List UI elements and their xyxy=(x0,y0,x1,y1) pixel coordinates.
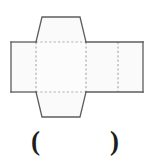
face-fills xyxy=(11,17,143,117)
answer-blank: ( ) xyxy=(0,126,148,160)
top-flap-fill xyxy=(36,17,86,42)
center-panel-fill xyxy=(36,42,86,92)
answer-close-paren: ) xyxy=(110,126,119,156)
bottom-flap-fill xyxy=(36,92,86,117)
answer-open-paren: ( xyxy=(31,126,40,156)
figure-canvas: ( ) xyxy=(0,0,148,162)
